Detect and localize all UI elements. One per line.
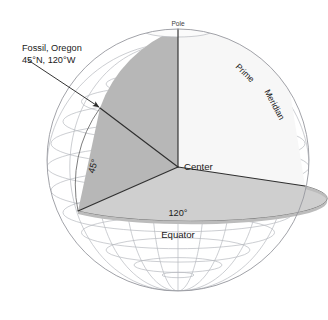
globe-diagram-svg: Fossil, Oregon 45°N, 120°W Pole Center E… — [0, 0, 328, 320]
longitude-angle-label: 120° — [168, 208, 187, 218]
equator-label: Equator — [161, 229, 195, 240]
site-callout-line2: 45°N, 120°W — [22, 55, 76, 65]
globe-wedge-figure: Fossil, Oregon 45°N, 120°W Pole Center E… — [0, 0, 328, 320]
pole-label: Pole — [171, 20, 185, 27]
site-callout-line1: Fossil, Oregon — [22, 43, 82, 53]
center-label: Center — [184, 161, 214, 172]
